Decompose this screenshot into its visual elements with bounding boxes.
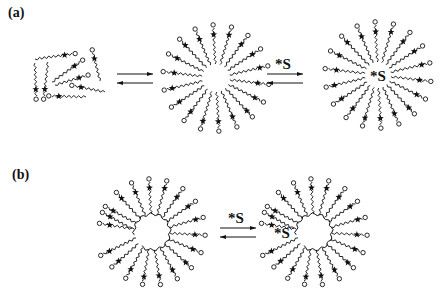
solubilizate-label: *S <box>370 68 386 84</box>
star-label-icon <box>377 115 384 122</box>
head-group-icon <box>259 221 263 225</box>
head-group-icon <box>323 66 327 70</box>
head-group-icon <box>124 276 128 280</box>
head-group-icon <box>320 282 324 286</box>
head-group-icon <box>262 210 266 214</box>
star-label-icon <box>71 62 78 69</box>
head-group-icon <box>203 233 207 237</box>
head-group-icon <box>41 97 45 101</box>
head-group-icon <box>344 115 348 119</box>
head-group-icon <box>99 253 103 257</box>
head-group-icon <box>337 277 341 281</box>
head-group-icon <box>211 23 215 27</box>
head-group-icon <box>162 88 166 92</box>
star-label-icon <box>351 246 358 253</box>
star-label-icon <box>413 91 420 98</box>
micelle-diagram: *S*S*S*S <box>0 0 440 302</box>
head-group-icon <box>360 124 364 128</box>
star-label-icon <box>323 185 330 192</box>
head-group-icon <box>70 83 74 87</box>
head-group-icon <box>165 179 169 183</box>
equilibrium-arrows <box>117 72 153 85</box>
star-label-icon <box>226 31 233 38</box>
head-group-icon <box>258 47 262 51</box>
head-group-icon <box>86 73 90 77</box>
head-group-icon <box>361 250 365 254</box>
head-group-icon <box>324 85 328 89</box>
head-group-icon <box>34 97 38 101</box>
head-group-icon <box>198 127 202 131</box>
diagram-layer: *S*S*S*S <box>32 20 433 287</box>
star-label-icon <box>388 29 395 36</box>
star-label-icon <box>106 221 113 228</box>
head-group-icon <box>266 64 270 68</box>
head-group-icon <box>291 181 295 185</box>
star-label-icon <box>391 110 398 117</box>
head-group-icon <box>286 276 290 280</box>
star-label-icon <box>308 184 315 191</box>
equilibrium-arrows: *S <box>267 56 303 85</box>
head-group-icon <box>355 199 359 203</box>
star-label-icon <box>189 246 196 253</box>
head-group-icon <box>327 179 331 183</box>
head-group-icon <box>365 233 369 237</box>
star-label-icon <box>269 213 276 220</box>
star-label-icon <box>91 55 98 62</box>
head-group-icon <box>420 44 424 48</box>
star-label-icon <box>353 231 360 238</box>
star-label-icon <box>358 33 365 40</box>
head-group-icon <box>423 97 427 101</box>
star-label-icon <box>272 207 279 214</box>
star-label-icon <box>127 266 134 273</box>
arrow-label: *S <box>228 210 244 226</box>
star-label-icon <box>256 64 263 71</box>
star-label-icon <box>418 61 425 68</box>
head-group-icon <box>428 61 432 65</box>
star-label-icon <box>229 113 236 120</box>
head-group-icon <box>97 221 101 225</box>
star-label-icon <box>174 55 181 62</box>
star-label-icon <box>416 76 423 83</box>
star-label-icon <box>333 66 340 73</box>
head-group-icon <box>201 215 205 219</box>
head-group-icon <box>110 265 114 269</box>
head-group-icon <box>100 210 104 214</box>
head-group-icon <box>90 48 94 52</box>
star-label-icon <box>32 86 39 93</box>
head-group-icon <box>261 100 265 104</box>
head-group-icon <box>328 49 332 53</box>
head-group-icon <box>161 69 165 73</box>
head-group-icon <box>276 190 280 194</box>
head-group-icon <box>181 186 185 190</box>
head-group-icon <box>158 282 162 286</box>
star-label-icon <box>191 231 198 238</box>
head-group-icon <box>193 27 197 31</box>
head-group-icon <box>169 105 173 109</box>
head-group-icon <box>397 122 401 126</box>
equilibrium-arrows: *S <box>220 210 256 239</box>
head-group-icon <box>261 253 265 257</box>
micelle: *S <box>323 20 433 131</box>
star-label-icon <box>55 93 62 100</box>
head-group-icon <box>147 177 151 181</box>
solubilizate-label: *S <box>274 225 290 241</box>
star-label-icon <box>171 69 178 76</box>
star-label-icon <box>289 266 296 273</box>
arrow-label: *S <box>275 56 291 72</box>
head-group-icon <box>408 30 412 34</box>
star-label-icon <box>254 79 261 86</box>
head-group-icon <box>412 112 416 116</box>
head-group-icon <box>103 204 107 208</box>
star-label-icon <box>251 94 258 101</box>
head-group-icon <box>217 129 221 133</box>
head-group-icon <box>177 37 181 41</box>
micelle <box>161 23 271 134</box>
micelle <box>97 177 207 287</box>
head-group-icon <box>331 102 335 106</box>
star-label-icon <box>110 207 117 214</box>
head-group-icon <box>272 265 276 269</box>
star-label-icon <box>61 51 68 58</box>
head-group-icon <box>193 199 197 203</box>
star-label-icon <box>336 52 343 59</box>
head-group-icon <box>114 190 118 194</box>
